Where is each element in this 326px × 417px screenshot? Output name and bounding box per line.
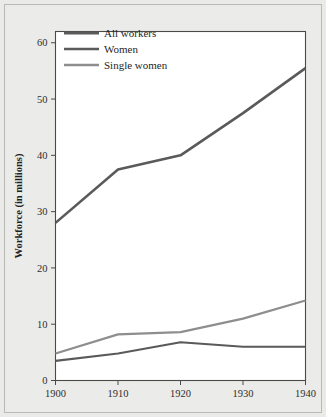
legend-label-all-workers: All workers <box>104 27 156 39</box>
x-tick-label: 1940 <box>295 388 316 399</box>
y-tick-label: 40 <box>37 150 48 161</box>
figure-page: 0102030405060 19001910192019301940 Workf… <box>0 0 326 417</box>
x-axis-tick-labels: 19001910192019301940 <box>45 388 316 399</box>
y-tick-label: 0 <box>42 375 47 386</box>
chart-svg: 0102030405060 19001910192019301940 Workf… <box>0 0 326 417</box>
x-tick-label: 1930 <box>233 388 254 399</box>
x-tick-label: 1910 <box>108 388 129 399</box>
y-tick-label: 20 <box>37 263 48 274</box>
legend-label-single-women: Single women <box>104 59 168 71</box>
y-tick-label: 50 <box>37 94 48 105</box>
line-chart: 0102030405060 19001910192019301940 Workf… <box>0 0 326 417</box>
y-axis-title: Workforce (in millions) <box>13 153 25 258</box>
y-axis-tick-labels: 0102030405060 <box>37 37 48 386</box>
plot-background <box>56 32 306 381</box>
x-tick-label: 1900 <box>45 388 66 399</box>
x-tick-label: 1920 <box>170 388 191 399</box>
legend-label-women: Women <box>104 43 138 55</box>
y-tick-label: 30 <box>37 206 48 217</box>
y-tick-label: 60 <box>37 37 48 48</box>
y-tick-label: 10 <box>37 319 48 330</box>
